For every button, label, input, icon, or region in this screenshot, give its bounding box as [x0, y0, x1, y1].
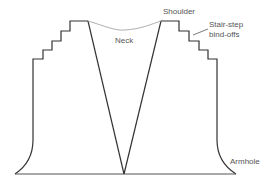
neck-label: Neck	[115, 36, 133, 46]
stair-step-label-line2: bind-offs	[209, 30, 240, 40]
left-side-outline	[15, 21, 88, 174]
stair-step-leader	[193, 29, 208, 35]
armhole-label: Armhole	[230, 157, 260, 167]
right-side-outline	[161, 21, 236, 174]
shoulder-label: Shoulder	[163, 7, 195, 17]
neck-curve	[88, 20, 163, 30]
stair-step-label-line1: Stair-step	[209, 20, 243, 30]
